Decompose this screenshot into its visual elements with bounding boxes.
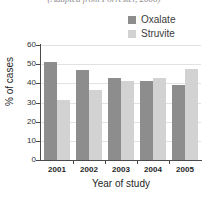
legend-swatch-struvite xyxy=(128,30,136,38)
y-axis-tick-label: 0 xyxy=(0,156,36,164)
chart-figure: (Adapted from Forrester, 2006) Oxalate S… xyxy=(0,0,208,200)
x-axis-tick-label-2005: 2005 xyxy=(169,165,201,174)
y-axis-tick xyxy=(36,64,40,65)
plot-area xyxy=(41,45,201,160)
bar-oxalate-2005 xyxy=(172,85,185,160)
bar-oxalate-2003 xyxy=(108,78,121,160)
figure-caption: (Adapted from Forrester, 2006) xyxy=(0,0,208,5)
x-axis-tick xyxy=(169,160,170,164)
y-axis-tick xyxy=(36,141,40,142)
bar-oxalate-2001 xyxy=(44,62,57,160)
x-axis-tick-label-2003: 2003 xyxy=(105,165,137,174)
x-axis-tick-label-2002: 2002 xyxy=(73,165,105,174)
bar-struvite-2004 xyxy=(153,78,166,160)
legend-label-oxalate: Oxalate xyxy=(141,14,175,25)
y-axis-tick xyxy=(36,122,40,123)
legend-swatch-oxalate xyxy=(128,16,136,24)
y-axis-title: % of cases xyxy=(4,42,15,122)
y-axis-tick xyxy=(36,45,40,46)
gridline xyxy=(41,45,201,46)
y-axis-tick-label: 10 xyxy=(0,137,36,145)
legend-item-struvite: Struvite xyxy=(128,27,175,40)
y-axis-tick xyxy=(36,160,40,161)
y-axis-tick xyxy=(36,83,40,84)
x-axis-tick xyxy=(105,160,106,164)
y-axis-tick-label-text: 10 xyxy=(2,137,36,145)
bar-struvite-2005 xyxy=(185,69,198,160)
x-axis-tick-label-2004: 2004 xyxy=(137,165,169,174)
bar-struvite-2002 xyxy=(89,90,102,160)
legend-label-struvite: Struvite xyxy=(141,28,175,39)
bar-oxalate-2004 xyxy=(140,81,153,160)
x-axis-title: Year of study xyxy=(40,178,202,189)
gridline xyxy=(41,64,201,65)
y-axis-tick xyxy=(36,103,40,104)
bar-struvite-2001 xyxy=(57,100,70,160)
x-axis-line xyxy=(40,160,202,161)
bar-struvite-2003 xyxy=(121,81,134,160)
legend-item-oxalate: Oxalate xyxy=(128,13,175,26)
x-axis-tick-label-2001: 2001 xyxy=(41,165,73,174)
chart-legend: Oxalate Struvite xyxy=(128,13,175,41)
x-axis-tick xyxy=(137,160,138,164)
y-axis-tick-label-text: 0 xyxy=(2,156,36,164)
x-axis-tick xyxy=(73,160,74,164)
bar-oxalate-2002 xyxy=(76,70,89,160)
